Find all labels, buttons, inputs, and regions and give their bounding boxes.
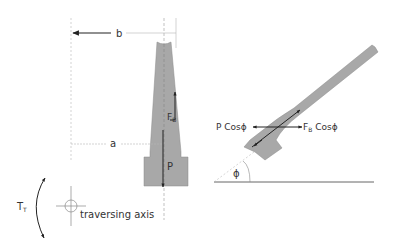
right-view: ϕ P Cosϕ FB Cosϕ — [214, 45, 378, 182]
torque-label: TT — [16, 201, 27, 213]
dimension-a-label: a — [110, 138, 116, 149]
torque-arc-icon — [36, 178, 45, 238]
p-cos-label: P Cosϕ — [216, 122, 247, 132]
left-view: b a FB P — [71, 18, 188, 220]
force-p-label: P — [167, 161, 173, 172]
inclined-arm — [244, 45, 378, 160]
angle-phi-label: ϕ — [233, 168, 240, 179]
joint-force-diagram: b a FB P traversing axis TT ϕ — [0, 0, 393, 250]
fb-cos-label: FB Cosϕ — [303, 122, 338, 133]
traversing-axis-label: traversing axis — [80, 209, 154, 220]
column-body — [144, 42, 188, 186]
angle-arc — [243, 161, 250, 182]
dimension-b-label: b — [116, 28, 122, 39]
traversing-axis-group: traversing axis TT — [16, 178, 154, 238]
